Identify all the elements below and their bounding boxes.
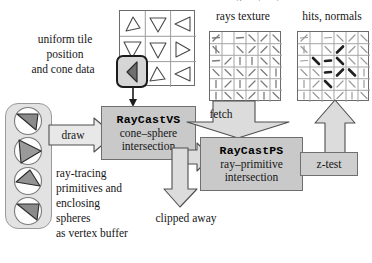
uniform-tile-label-line2: position	[14, 48, 116, 61]
raycast-vs-desc-1: cone–sphere	[120, 127, 177, 140]
cone-glyph	[176, 42, 190, 57]
vertex-buffer-caption-l3: enclosing	[56, 197, 166, 210]
raycast-ps-box[interactable]: RayCastPS ray–primitive intersection	[200, 137, 303, 191]
z-test-box[interactable]: z-test	[300, 152, 358, 176]
vertex-buffer-primitives	[8, 106, 49, 226]
raycast-vs-name: RayCastVS	[117, 113, 181, 126]
selected-tile[interactable]	[116, 55, 148, 88]
vertex-buffer-caption-l2: primitives and	[56, 182, 171, 195]
cone-glyph	[150, 67, 165, 81]
selected-tile-cone-icon	[119, 58, 146, 86]
raycast-ps-name: RayCastPS	[220, 144, 284, 157]
rays-texture-svg	[210, 32, 282, 102]
arrow-clipped-away	[162, 147, 200, 209]
cone-glyph	[126, 17, 140, 31]
vertex-buffer-caption-l1: ray-tracing	[56, 167, 166, 180]
fetch-label: fetch	[192, 108, 250, 121]
rays-texture-grid	[209, 31, 281, 101]
cut-off-caption: the structure	[236, 0, 346, 1]
vertex-buffer-caption-l5: as vertex buffer	[56, 227, 176, 240]
z-test-label: z-test	[317, 158, 342, 171]
hits-normals-svg	[298, 32, 370, 102]
cone-glyph	[150, 18, 166, 32]
raycast-ps-desc-2: intersection	[225, 171, 279, 184]
clipped-away-label: clipped away	[140, 212, 232, 225]
diagram-canvas: the structure	[0, 0, 372, 263]
uniform-tile-label-line3: and cone data	[10, 63, 116, 76]
cone-glyph	[150, 43, 166, 58]
draw-label: draw	[52, 129, 94, 142]
raycast-ps-desc-1: ray–primitive	[220, 158, 283, 171]
uniform-tile-label-line1: uniform tile	[14, 33, 116, 46]
hits-normals-label: hits, normals	[289, 10, 372, 23]
rays-texture-label: rays texture	[200, 10, 286, 23]
cone-glyph	[175, 17, 190, 31]
cone-glyph	[175, 67, 190, 81]
arrow-tile-to-vs	[126, 86, 140, 108]
hits-normals-grid	[297, 31, 369, 101]
